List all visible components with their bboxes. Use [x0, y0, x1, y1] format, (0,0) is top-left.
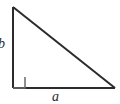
vertical-leg-label: b	[0, 37, 5, 51]
horizontal-leg-label: a	[52, 90, 59, 104]
right-triangle-figure: b a	[0, 0, 120, 104]
triangle-drawing	[0, 0, 120, 104]
hypotenuse-line	[13, 7, 115, 88]
right-angle-marker-icon	[13, 77, 25, 88]
